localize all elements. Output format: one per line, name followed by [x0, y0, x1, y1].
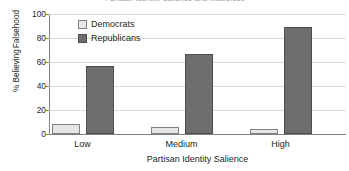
chart-title-cropped: Partisan Identity Salience and Mispercep…	[105, 0, 245, 1]
gridline	[49, 14, 346, 15]
x-axis-title: Partisan Identity Salience	[49, 154, 346, 164]
legend-swatch-republicans-icon	[78, 34, 87, 43]
legend-item-democrats: Democrats	[78, 19, 141, 30]
legend-item-republicans: Republicans	[78, 33, 141, 44]
y-axis-tick-mark	[45, 14, 49, 15]
legend-label-republicans: Republicans	[91, 34, 141, 43]
y-axis-tick-label: 0	[24, 130, 46, 138]
y-axis-tick-mark	[45, 86, 49, 87]
y-axis-tick-label: 80	[24, 34, 46, 42]
bar-democrats-high	[250, 129, 278, 134]
bar-republicans-high	[284, 27, 312, 134]
bar-democrats-low	[52, 124, 80, 134]
y-axis-title-line2: Falsehood	[12, 10, 21, 48]
bar-democrats-medium	[151, 127, 179, 134]
y-axis-tick-label: 40	[24, 82, 46, 90]
y-axis-tick-label: 20	[24, 106, 46, 114]
x-axis-tick-label-medium: Medium	[142, 139, 222, 149]
y-axis-tick-mark	[45, 38, 49, 39]
bar-chart-figure: Partisan Identity Salience and Mispercep…	[0, 0, 349, 171]
y-axis-tick-label: 100	[24, 10, 46, 18]
legend-label-democrats: Democrats	[91, 20, 135, 29]
legend-swatch-democrats-icon	[78, 20, 87, 29]
y-axis-tick-mark	[45, 110, 49, 111]
y-axis-title-line1: % Believing	[12, 49, 21, 92]
y-axis-tick-label: 60	[24, 58, 46, 66]
chart-legend: Democrats Republicans	[78, 19, 141, 44]
bar-republicans-medium	[185, 54, 213, 134]
x-axis-tick-label-high: High	[241, 139, 321, 149]
gridline	[49, 134, 346, 135]
y-axis-tick-mark	[45, 134, 49, 135]
y-axis-tick-mark	[45, 62, 49, 63]
bar-republicans-low	[86, 66, 114, 134]
x-axis-tick-label-low: Low	[43, 139, 123, 149]
